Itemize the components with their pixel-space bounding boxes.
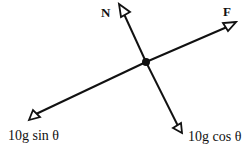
arrowhead-n-icon	[119, 4, 130, 17]
force-line-sin	[36, 62, 146, 114]
force-line-cos	[146, 62, 178, 126]
arrowhead-cos-icon	[173, 123, 182, 133]
arrowhead-f-icon	[223, 22, 236, 31]
center-point	[142, 58, 150, 66]
label-n: N	[101, 5, 111, 20]
arrowhead-sin-icon	[29, 110, 40, 120]
force-diagram: N F 10g sin θ 10g cos θ	[0, 0, 251, 160]
label-cos: 10g cos θ	[188, 129, 242, 144]
force-line-n	[124, 14, 146, 62]
force-line-f	[146, 27, 227, 62]
label-f: F	[223, 4, 231, 19]
label-sin: 10g sin θ	[8, 128, 59, 143]
